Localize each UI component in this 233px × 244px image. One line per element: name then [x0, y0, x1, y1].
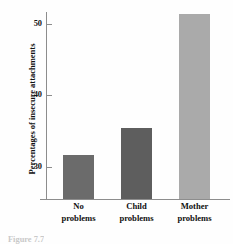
x-axis-tick-label-line: problems — [49, 213, 109, 225]
x-axis-tick-label: Motherproblems — [165, 201, 225, 224]
y-axis-tick-label: 50 — [34, 20, 42, 28]
x-axis-tick-label: Childproblems — [107, 201, 167, 224]
x-axis-tick-label-line: problems — [165, 213, 225, 225]
y-axis-tick-label: 40 — [34, 91, 42, 99]
bar-series — [46, 6, 230, 199]
x-axis-tick-label-line: Child — [107, 201, 167, 213]
y-axis-title: Percentages of insecure attachments — [27, 14, 37, 204]
x-axis-line — [40, 199, 230, 200]
x-axis-tick-label-line: problems — [107, 213, 167, 225]
plot-area: 304050 — [46, 6, 230, 200]
x-axis-tick-label: Noproblems — [49, 201, 109, 224]
x-axis-tick-label-line: Mother — [165, 201, 225, 213]
x-axis-tick-label-line: No — [49, 201, 109, 213]
figure-container: Percentages of insecure attachments 3040… — [0, 0, 233, 244]
bar — [63, 155, 94, 199]
x-axis-tick-labels: NoproblemsChildproblemsMotherproblems — [46, 201, 230, 231]
y-axis-tick-label: 30 — [34, 163, 42, 171]
figure-caption: Figure 7.7 — [8, 235, 44, 244]
bar — [121, 128, 152, 199]
bar — [179, 14, 210, 199]
